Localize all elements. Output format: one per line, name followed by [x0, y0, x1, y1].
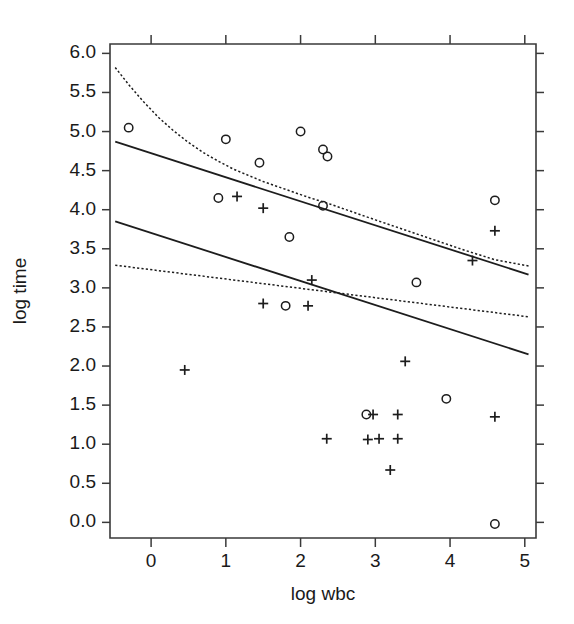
data-point-plus	[374, 434, 384, 444]
y-tick-label: 3.5	[70, 237, 96, 258]
data-point-circle	[412, 278, 420, 286]
fitted-lines-group	[115, 142, 528, 355]
data-points-group	[124, 123, 499, 528]
y-tick-label: 5.5	[70, 80, 96, 101]
y-axis-label: log time	[9, 258, 30, 325]
data-point-plus	[400, 356, 410, 366]
y-tick-label: 5.0	[70, 120, 96, 141]
axis-frame-path	[110, 44, 536, 538]
data-point-plus	[258, 299, 268, 309]
x-tick-label: 2	[295, 550, 306, 571]
data-point-plus	[258, 203, 268, 213]
fitted-curves-group	[115, 67, 528, 266]
data-point-plus	[385, 465, 395, 475]
x-tick-label: 4	[445, 550, 456, 571]
lower-dashed-line	[115, 265, 528, 317]
x-tick-label: 5	[520, 550, 531, 571]
y-tick-label: 4.0	[70, 198, 96, 219]
data-point-circle	[323, 152, 331, 160]
y-axis-ticks: 0.00.51.01.52.02.53.03.54.04.55.05.56.0	[70, 41, 544, 531]
plot-canvas: 0.00.51.01.52.02.53.03.54.04.55.05.56.0 …	[0, 0, 574, 624]
data-point-plus	[180, 365, 190, 375]
data-point-circle	[124, 123, 132, 131]
upper-dashed-curve	[115, 67, 528, 266]
upper-solid-line	[115, 142, 528, 275]
y-tick-label: 4.5	[70, 159, 96, 180]
data-point-circle	[491, 196, 499, 204]
y-tick-label: 2.5	[70, 315, 96, 336]
y-tick-label: 6.0	[70, 41, 96, 62]
x-tick-label: 0	[146, 550, 157, 571]
y-tick-label: 2.0	[70, 354, 96, 375]
y-tick-label: 1.0	[70, 432, 96, 453]
data-point-circle	[285, 233, 293, 241]
y-tick-label: 3.0	[70, 276, 96, 297]
data-point-plus	[322, 434, 332, 444]
y-tick-label: 1.5	[70, 393, 96, 414]
data-point-circle	[296, 127, 304, 135]
data-point-circle	[214, 194, 222, 202]
x-tick-label: 1	[221, 550, 232, 571]
data-point-circle	[281, 302, 289, 310]
data-point-plus	[490, 226, 500, 236]
data-point-plus	[303, 301, 313, 311]
data-point-plus	[490, 412, 500, 422]
data-point-plus	[363, 435, 373, 445]
data-point-plus	[232, 191, 242, 201]
scatter-plot-figure: 0.00.51.01.52.02.53.03.54.04.55.05.56.0 …	[0, 0, 574, 624]
x-axis-ticks: 012345	[146, 35, 530, 571]
y-tick-label: 0.5	[70, 471, 96, 492]
data-point-circle	[491, 520, 499, 528]
data-point-plus	[393, 434, 403, 444]
data-point-circle	[442, 395, 450, 403]
axes-frame	[110, 44, 536, 538]
x-axis-label: log wbc	[291, 583, 355, 604]
lower-solid-line	[115, 221, 528, 354]
y-tick-label: 0.0	[70, 510, 96, 531]
data-point-plus	[393, 410, 403, 420]
data-point-circle	[255, 159, 263, 167]
data-point-circle	[222, 135, 230, 143]
x-tick-label: 3	[370, 550, 381, 571]
